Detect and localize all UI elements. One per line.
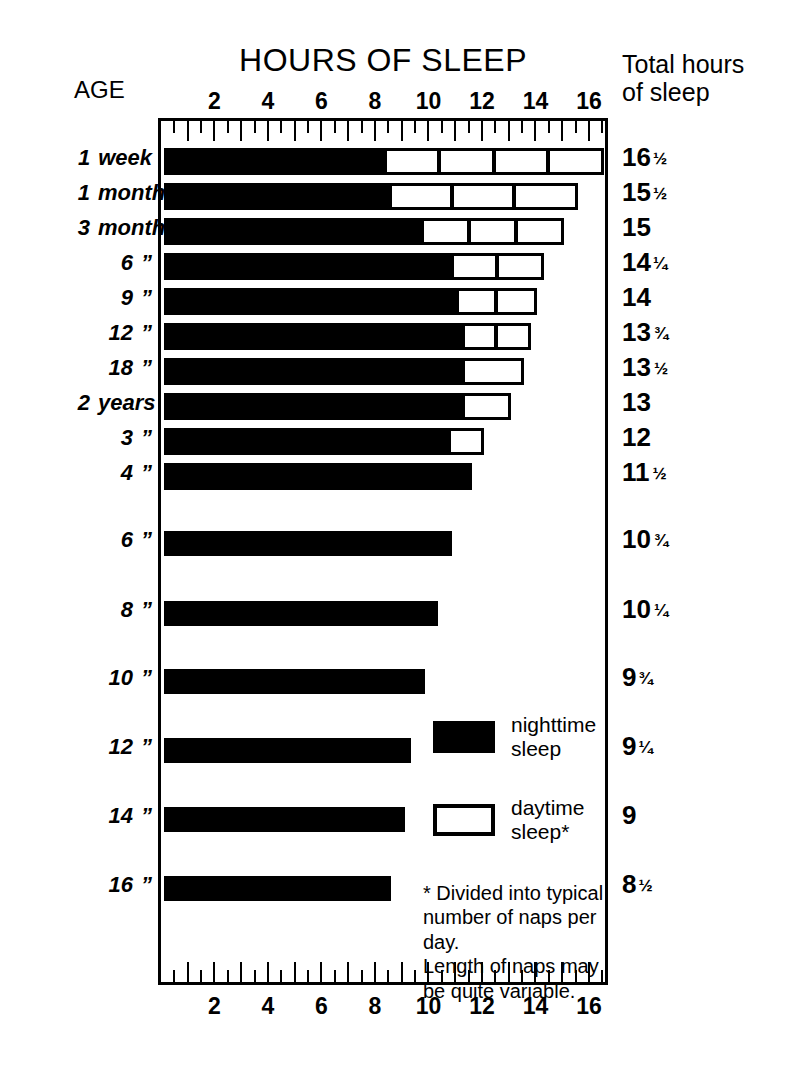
row-label-age-unit: ”: [141, 285, 152, 310]
daytime-nap-segment: [449, 428, 484, 455]
axis-tick: [534, 121, 536, 141]
axis-tick: [200, 970, 202, 982]
row-label-age: 6”: [56, 527, 152, 553]
nighttime-sleep-segment: [164, 288, 458, 315]
daytime-nap-segment: [496, 288, 537, 315]
nighttime-sleep-segment: [164, 669, 425, 694]
daytime-nap-segment: [514, 183, 577, 210]
daytime-nap-segment: [452, 253, 498, 280]
row-total-whole: 13: [622, 317, 651, 347]
row-total-whole: 15: [622, 212, 651, 242]
row-label-age: 14”: [56, 803, 152, 829]
row-label-age: 8”: [56, 597, 152, 623]
axis-tick: [454, 121, 456, 141]
row-label-age-unit: ”: [141, 665, 152, 690]
legend-night-line1: nighttime: [511, 713, 596, 737]
axis-tick: [173, 121, 175, 133]
axis-tick: [334, 121, 336, 133]
nighttime-sleep-segment: [164, 876, 391, 901]
row-total-whole: 12: [622, 422, 651, 452]
row-label-age-unit: ”: [141, 320, 152, 345]
axis-tick: [173, 970, 175, 982]
nighttime-sleep-segment: [164, 323, 464, 350]
bar-row: [164, 876, 391, 901]
nighttime-sleep-segment: [164, 393, 464, 420]
row-total-whole: 13: [622, 387, 651, 417]
legend-item-daytime: daytime sleep*: [433, 796, 585, 843]
row-total-whole: 16: [622, 142, 651, 172]
axis-tick-label: 4: [262, 993, 275, 1020]
row-total-hours: 9: [622, 800, 636, 831]
row-label-age-unit: months: [98, 215, 177, 240]
row-total-hours: 10¼: [622, 594, 668, 625]
page-title: HOURS OF SLEEP: [158, 42, 608, 79]
row-total-fraction: ½: [653, 464, 667, 483]
axis-tick-label: 6: [315, 88, 328, 115]
nighttime-sleep-segment: [164, 428, 450, 455]
row-total-hours: 14¼: [622, 247, 667, 278]
footnote-line1: * Divided into typical: [423, 881, 623, 905]
axis-tick: [267, 121, 269, 141]
row-label-age-unit: ”: [141, 734, 152, 759]
axis-tick: [601, 121, 603, 133]
axis-tick-label: 8: [369, 88, 382, 115]
row-label-age-number: 9: [99, 285, 133, 311]
bar-row: [164, 807, 405, 832]
row-total-whole: 13: [622, 352, 651, 382]
row-total-whole: 9: [622, 662, 636, 692]
axis-tick-label: 14: [523, 88, 549, 115]
axis-ruler-top: [161, 121, 605, 143]
daytime-swatch-icon: [433, 804, 495, 836]
axis-tick: [441, 121, 443, 133]
footnote-line3: Length of naps may: [423, 954, 623, 978]
nighttime-sleep-segment: [164, 218, 423, 245]
axis-tick-label: 12: [469, 993, 495, 1020]
row-total-whole: 9: [622, 800, 636, 830]
axis-tick: [240, 121, 242, 141]
axis-tick: [414, 121, 416, 133]
footnote-line2: number of naps per day.: [423, 905, 623, 954]
axis-tick: [227, 121, 229, 133]
axis-tick: [427, 121, 429, 141]
row-total-hours: 13¾: [622, 317, 668, 348]
row-total-hours: 15: [622, 212, 651, 243]
row-label-age: 10”: [56, 665, 152, 691]
row-total-hours: 13½: [622, 352, 668, 383]
axis-tick: [374, 121, 376, 141]
row-total-hours: 11½: [622, 457, 667, 488]
total-hours-header: Total hours of sleep: [622, 50, 802, 106]
bar-row: [164, 183, 578, 210]
row-total-fraction: ¼: [653, 254, 667, 273]
row-label-age: 9”: [56, 285, 152, 311]
axis-tick: [200, 121, 202, 133]
axis-tick: [548, 121, 550, 133]
row-label-age: 3”: [56, 425, 152, 451]
daytime-nap-segment: [516, 218, 564, 245]
row-label-age: 3months: [56, 215, 152, 241]
bar-row: [164, 669, 425, 694]
row-label-age-number: 12: [99, 734, 133, 760]
row-label-age-number: 6: [99, 527, 133, 553]
plot-area: nighttime sleep daytime sleep* * Divided…: [158, 118, 608, 985]
nighttime-sleep-segment: [164, 148, 386, 175]
row-label-age-unit: month: [98, 180, 165, 205]
row-total-whole: 10: [622, 594, 651, 624]
row-label-age-number: 1: [56, 145, 90, 171]
axis-tick-label: 16: [576, 993, 602, 1020]
row-label-age-number: 3: [56, 215, 90, 241]
row-total-hours: 13: [622, 387, 651, 418]
bar-row: [164, 601, 438, 626]
row-total-hours: 8½: [622, 869, 653, 900]
daytime-nap-segment: [385, 148, 440, 175]
bar-row: [164, 393, 511, 420]
bar-row: [164, 148, 604, 175]
axis-tick: [294, 121, 296, 141]
row-label-age-number: 16: [99, 872, 133, 898]
row-total-hours: 10¾: [622, 524, 668, 555]
axis-tick: [187, 121, 189, 141]
row-label-age-unit: ”: [141, 250, 152, 275]
axis-tick: [294, 962, 296, 982]
axis-tick: [374, 962, 376, 982]
row-label-age-number: 18: [99, 355, 133, 381]
axis-tick: [320, 962, 322, 982]
